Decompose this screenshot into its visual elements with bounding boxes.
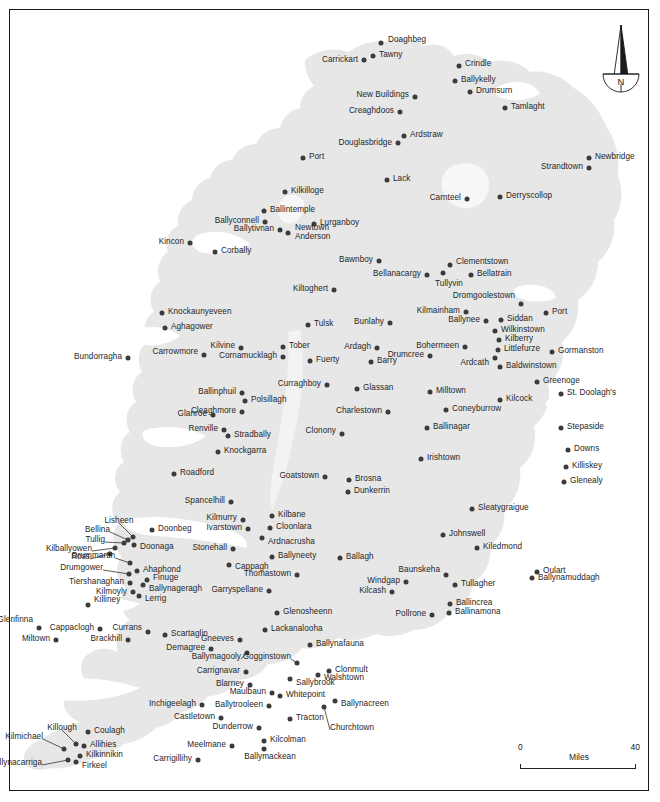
place-label[interactable]: Tullyvin	[435, 279, 463, 288]
place-label[interactable]: Gogginstown	[243, 652, 291, 661]
place-label[interactable]: Ballinagar	[433, 422, 470, 431]
place-dot[interactable]	[419, 457, 424, 462]
place-label[interactable]: Baunskeha	[399, 565, 440, 574]
place-dot[interactable]	[369, 360, 374, 365]
place-dot[interactable]	[263, 628, 268, 633]
place-dot[interactable]	[122, 541, 127, 546]
place-dot[interactable]	[441, 271, 446, 276]
place-label[interactable]: New Buildings	[356, 90, 409, 99]
place-label[interactable]: Ballagh	[346, 552, 374, 561]
place-dot[interactable]	[128, 581, 133, 586]
place-label[interactable]: Fuerty	[316, 355, 340, 364]
place-dot[interactable]	[448, 263, 453, 268]
place-label[interactable]: Garryspellane	[211, 585, 263, 594]
place-dot[interactable]	[484, 319, 489, 324]
place-label[interactable]: Glenosheenn	[283, 607, 332, 616]
place-dot[interactable]	[172, 472, 177, 477]
place-dot[interactable]	[447, 611, 452, 616]
place-label[interactable]: Curraghboy	[278, 379, 321, 388]
place-label[interactable]: Ballyneety	[278, 551, 316, 560]
place-label[interactable]: Newbridge	[595, 152, 635, 161]
place-dot[interactable]	[270, 691, 275, 696]
place-dot[interactable]	[396, 141, 401, 146]
place-dot[interactable]	[564, 465, 569, 470]
place-label[interactable]: Douglasbridge	[339, 138, 392, 147]
place-label[interactable]: Kilmichael	[5, 732, 43, 741]
place-label[interactable]: Kincon	[159, 237, 184, 246]
place-dot[interactable]	[278, 228, 283, 233]
place-dot[interactable]	[222, 428, 227, 433]
place-dot[interactable]	[226, 434, 231, 439]
place-label[interactable]: Lack	[393, 174, 411, 183]
place-dot[interactable]	[559, 426, 564, 431]
place-dot[interactable]	[262, 209, 267, 214]
place-dot[interactable]	[126, 638, 131, 643]
place-dot[interactable]	[404, 580, 409, 585]
place-label[interactable]: Roadford	[180, 468, 214, 477]
place-dot[interactable]	[430, 613, 435, 618]
place-dot[interactable]	[428, 354, 433, 359]
place-label[interactable]: Tawny	[379, 50, 402, 59]
place-dot[interactable]	[448, 602, 453, 607]
place-dot[interactable]	[413, 95, 418, 100]
place-dot[interactable]	[425, 426, 430, 431]
place-label[interactable]: Cloonlara	[276, 522, 312, 531]
place-dot[interactable]	[281, 345, 286, 350]
place-label[interactable]: Doonaga	[140, 542, 174, 551]
place-label[interactable]: Glenealy	[570, 476, 603, 485]
place-dot[interactable]	[340, 432, 345, 437]
place-dot[interactable]	[286, 231, 291, 236]
place-label[interactable]: Polsillagh	[251, 395, 287, 404]
place-dot[interactable]	[278, 694, 283, 699]
place-label[interactable]: Ballymackean	[244, 752, 296, 761]
place-dot[interactable]	[562, 480, 567, 485]
place-label[interactable]: Tober	[289, 341, 310, 350]
place-label[interactable]: Charlestown	[336, 406, 382, 415]
place-label[interactable]: Currans	[113, 623, 142, 632]
place-dot[interactable]	[230, 744, 235, 749]
place-label[interactable]: Killiney	[94, 595, 120, 604]
place-label[interactable]: Kilmainham	[417, 306, 460, 315]
place-dot[interactable]	[498, 195, 503, 200]
place-label[interactable]: Bunlahy	[354, 317, 384, 326]
place-dot[interactable]	[288, 717, 293, 722]
place-dot[interactable]	[333, 699, 338, 704]
place-label[interactable]: Cappaclogh	[50, 623, 94, 632]
place-label[interactable]: Bohermeen	[416, 341, 459, 350]
place-dot[interactable]	[132, 543, 137, 548]
place-label[interactable]: Baldwinstown	[506, 361, 557, 370]
place-label[interactable]: Sleatygraigue	[478, 503, 529, 512]
place-label[interactable]: Kilmurry	[207, 513, 237, 522]
place-label[interactable]: Kilcash	[359, 586, 386, 595]
place-dot[interactable]	[347, 478, 352, 483]
place-label[interactable]: Miltown	[22, 634, 50, 643]
place-label[interactable]: Ballynamuddagh	[538, 573, 600, 582]
place-dot[interactable]	[82, 744, 87, 749]
place-dot[interactable]	[163, 326, 168, 331]
place-dot[interactable]	[200, 703, 205, 708]
place-dot[interactable]	[54, 638, 59, 643]
place-label[interactable]: Ballintemple	[270, 205, 315, 214]
place-dot[interactable]	[390, 590, 395, 595]
place-label[interactable]: Maulbaun	[230, 687, 266, 696]
place-dot[interactable]	[385, 178, 390, 183]
place-label[interactable]: Carrigillihy	[153, 754, 192, 763]
place-dot[interactable]	[377, 259, 382, 264]
place-dot[interactable]	[530, 576, 535, 581]
place-dot[interactable]	[453, 79, 458, 84]
place-label[interactable]: Siddan	[507, 314, 533, 323]
place-dot[interactable]	[379, 41, 384, 46]
place-label[interactable]: Kilkinnikin	[86, 750, 123, 759]
place-label[interactable]: Littlefurze	[504, 344, 540, 353]
place-label[interactable]: Ballinamona	[455, 607, 501, 616]
place-dot[interactable]	[316, 673, 321, 678]
place-label[interactable]: Ballymagooly	[192, 652, 241, 661]
place-dot[interactable]	[188, 241, 193, 246]
place-label[interactable]: Pollrone	[396, 609, 426, 618]
place-dot[interactable]	[463, 345, 468, 350]
place-dot[interactable]	[444, 573, 449, 578]
place-label[interactable]: Glanroe	[178, 409, 207, 418]
place-label[interactable]: Knockgarra	[224, 446, 266, 455]
place-label[interactable]: Greenoge	[543, 376, 580, 385]
place-label[interactable]: Whitepoint	[286, 690, 325, 699]
